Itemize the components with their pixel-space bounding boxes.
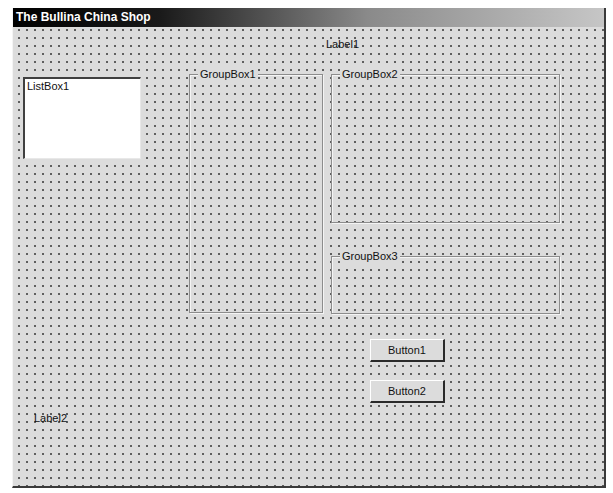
listbox-item[interactable]: ListBox1 (27, 80, 138, 92)
window-title-bar[interactable]: The Bullina China Shop (13, 8, 604, 27)
groupbox1[interactable]: GroupBox1 (189, 74, 323, 313)
form-designer-window: The Bullina China Shop Label1 ListBox1 G… (12, 8, 606, 488)
groupbox2-caption: GroupBox2 (340, 68, 400, 81)
label2[interactable]: Label2 (34, 412, 67, 424)
groupbox3[interactable]: GroupBox3 (331, 256, 560, 314)
button2[interactable]: Button2 (370, 380, 445, 403)
listbox1[interactable]: ListBox1 (23, 77, 141, 159)
button1[interactable]: Button1 (370, 339, 445, 362)
label1[interactable]: Label1 (326, 38, 359, 50)
groupbox3-caption: GroupBox3 (340, 250, 400, 263)
groupbox1-caption: GroupBox1 (198, 68, 258, 81)
groupbox2[interactable]: GroupBox2 (331, 74, 560, 223)
window-title: The Bullina China Shop (16, 10, 151, 24)
